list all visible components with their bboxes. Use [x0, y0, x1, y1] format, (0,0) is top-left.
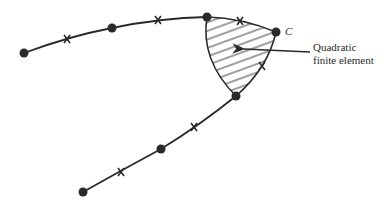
corner-node-icon [157, 145, 166, 154]
corner-node-icon [108, 24, 117, 33]
finite-element-diagram: C Quadratic finite element [0, 0, 390, 209]
lower-boundary-curve [83, 96, 236, 192]
quadratic-finite-element [206, 17, 276, 96]
corner-node-c-icon [272, 28, 281, 37]
node-label-c: C [285, 25, 293, 37]
upper-boundary-curve [24, 17, 207, 53]
corner-node-icon [203, 13, 212, 22]
caption-line-2: finite element [313, 54, 374, 66]
corner-node-icon [20, 49, 29, 58]
corner-node-icon [79, 188, 88, 197]
caption-line-1: Quadratic [313, 41, 356, 53]
corner-node-icon [232, 92, 241, 101]
